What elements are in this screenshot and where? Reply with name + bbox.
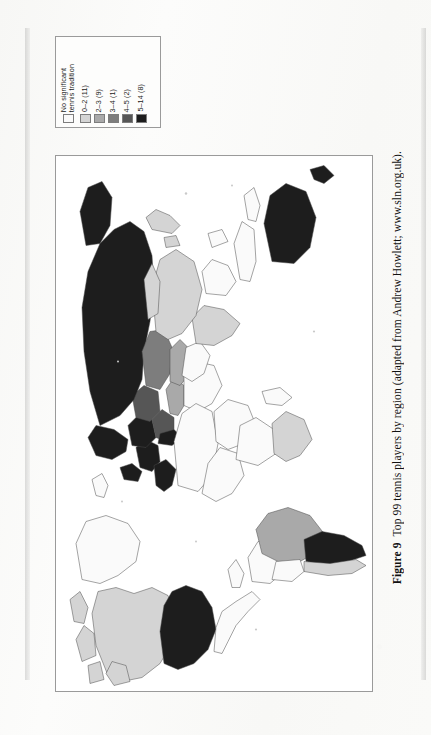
legend-item-label: No significant tennis tradition [60, 64, 77, 112]
legend-item-swatch [80, 114, 91, 123]
map-figure-frame [55, 155, 373, 692]
legend-item-label: 4–5 (2) [123, 89, 131, 112]
legend-item-label: 3–4 (1) [109, 89, 117, 112]
figure-caption-text: Top 99 tennis players by region (adapted… [391, 151, 403, 536]
legend-item-label: 5–14 (8) [137, 84, 145, 112]
legend-item-swatch [63, 114, 74, 123]
legend-item-2: 2–3 (9) [94, 41, 105, 123]
page-gutter-left [25, 28, 30, 680]
figure-label: Figure 9 [391, 542, 403, 584]
legend-item-1: 0–2 (11) [80, 41, 91, 123]
world-choropleth-svg [56, 156, 372, 691]
legend-item-5: 5–14 (8) [136, 41, 147, 123]
legend-item-swatch [94, 114, 105, 123]
legend-item-swatch [136, 114, 147, 123]
legend-item-label: 0–2 (11) [81, 85, 89, 112]
legend-item-label: 2–3 (9) [95, 89, 103, 112]
legend-item-3: 3–4 (1) [108, 41, 119, 123]
world-map-rotated [56, 156, 372, 691]
legend-item-swatch [108, 114, 119, 123]
legend-item-swatch [122, 114, 133, 123]
legend-item-4: 4–5 (2) [122, 41, 133, 123]
legend-item-0: No significant tennis tradition [60, 41, 77, 123]
page-gutter-right [421, 28, 426, 680]
figure-caption: Figure 9 Top 99 tennis players by region… [377, 0, 417, 735]
map-legend: No significant tennis tradition0–2 (11)2… [55, 36, 161, 128]
